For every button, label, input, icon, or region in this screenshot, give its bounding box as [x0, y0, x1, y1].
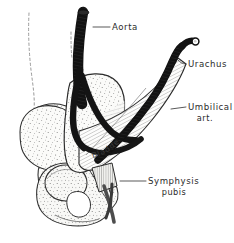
- label-symphysis-pubis-line2: pubis: [162, 187, 187, 197]
- label-urachus: Urachus: [188, 59, 227, 69]
- label-umbilical-artery-line2: art.: [197, 113, 213, 123]
- obturator-foramen: [67, 191, 91, 217]
- anatomical-figure: Aorta Urachus Umbilical art. Symphysis p…: [0, 0, 234, 243]
- label-aorta: Aorta: [112, 22, 138, 32]
- label-symphysis-pubis-line1: Symphysis: [148, 176, 199, 186]
- label-umbilical-artery-line1: Umbilical: [188, 102, 233, 112]
- anatomy-illustration: Aorta Urachus Umbilical art. Symphysis p…: [0, 0, 234, 243]
